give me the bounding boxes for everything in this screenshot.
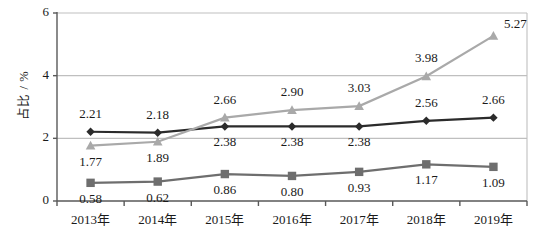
data-label-series-triangle-2015年: 2.66 (201, 92, 249, 108)
series-square-marker-square (154, 177, 162, 185)
data-label-series-square-2018年: 1.17 (402, 172, 450, 188)
data-label-series-diamond-2017年: 2.38 (335, 134, 383, 150)
data-label-series-square-2015年: 0.86 (201, 182, 249, 198)
data-label-series-triangle-2017年: 3.03 (335, 80, 383, 96)
data-label-series-square-2013年: 0.58 (67, 191, 115, 207)
series-diamond-marker-diamond (489, 113, 497, 121)
x-tick-label-2014年: 2014年 (123, 209, 193, 228)
series-square-marker-square (355, 168, 363, 176)
series-square-marker-square (86, 179, 94, 187)
data-label-series-diamond-2019年: 2.66 (469, 92, 517, 108)
series-diamond-marker-diamond (288, 122, 296, 130)
series-square-marker-square (422, 160, 430, 168)
x-tick-label-2018年: 2018年 (391, 209, 461, 228)
series-diamond-marker-diamond (86, 128, 94, 136)
y-tick-label-6: 6 (27, 4, 49, 20)
series-diamond-marker-diamond (355, 122, 363, 130)
data-label-series-diamond-2016年: 2.38 (268, 134, 316, 150)
x-tick-label-2015年: 2015年 (190, 209, 260, 228)
series-square-marker-square (489, 163, 497, 171)
y-tick-label-4: 4 (27, 67, 49, 83)
data-label-series-diamond-2013年: 2.21 (67, 106, 115, 122)
x-tick-label-2019年: 2019年 (458, 209, 528, 228)
data-label-series-diamond-2014年: 2.18 (134, 107, 182, 123)
x-tick-label-2013年: 2013年 (56, 209, 126, 228)
data-label-series-triangle-2013年: 1.77 (67, 154, 115, 170)
y-tick-label-0: 0 (27, 192, 49, 208)
data-label-series-triangle-2014年: 1.89 (134, 150, 182, 166)
data-label-series-diamond-2018年: 2.56 (402, 95, 450, 111)
data-label-series-square-2016年: 0.80 (268, 184, 316, 200)
series-triangle-marker-triangle (489, 31, 499, 40)
x-tick-label-2017年: 2017年 (324, 209, 394, 228)
data-label-series-square-2017年: 0.93 (335, 180, 383, 196)
data-label-series-diamond-2015年: 2.38 (201, 134, 249, 150)
data-label-series-square-2019年: 1.09 (469, 175, 517, 191)
series-square-marker-square (288, 172, 296, 180)
y-tick-label-2: 2 (27, 129, 49, 145)
series-square-marker-square (221, 170, 229, 178)
data-label-series-triangle-2016年: 2.90 (268, 84, 316, 100)
data-label-series-triangle-2018年: 3.98 (402, 50, 450, 66)
line-chart: 占比 / % 0246 2013年2014年2015年2016年2017年201… (0, 0, 544, 231)
series-diamond-marker-diamond (221, 122, 229, 130)
x-tick-label-2016年: 2016年 (257, 209, 327, 228)
series-diamond-marker-diamond (154, 128, 162, 136)
data-label-series-square-2014年: 0.62 (134, 190, 182, 206)
data-label-series-triangle-2019年: 5.27 (491, 16, 539, 32)
series-diamond-marker-diamond (422, 117, 430, 125)
